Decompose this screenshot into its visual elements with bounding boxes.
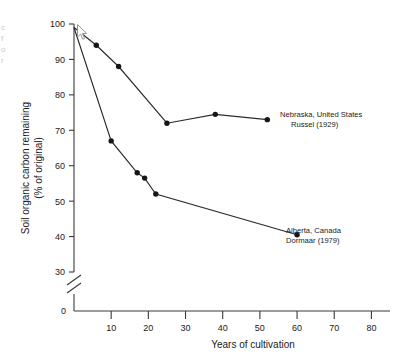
y-axis-tick-label-60: 60: [55, 161, 65, 171]
x-axis-tick-label-40: 40: [218, 323, 228, 333]
y-axis-tick-label-100: 100: [50, 19, 65, 29]
data-point: [265, 117, 270, 122]
series-line-nebraska: [74, 28, 267, 124]
data-point: [135, 170, 140, 175]
data-point: [142, 175, 147, 180]
x-axis-ticks: 1020304050607080: [106, 311, 376, 333]
x-axis-tick-label-30: 30: [181, 323, 191, 333]
y-axis-tick-label-90: 90: [55, 55, 65, 65]
y-axis-title-line2: (% of original): [33, 137, 44, 199]
series-line-alberta: [74, 28, 297, 235]
mouse-cursor-icon: [77, 24, 88, 41]
series-annotation-alberta: Alberta, Canada Dormaar (1979): [286, 226, 342, 245]
series-label-nebraska-line1: Nebraska, United States: [280, 110, 363, 119]
x-axis-tick-label-70: 70: [329, 323, 339, 333]
chart-figure: 30405060708090100 1020304050607080 0 Soi…: [0, 0, 395, 363]
y-axis-break-icon: [67, 275, 81, 293]
data-point: [213, 112, 218, 117]
y-axis-title-line1: Soil organic carbon remaining: [20, 102, 31, 234]
data-point: [164, 121, 169, 126]
y-axis-tick-label-50: 50: [55, 197, 65, 207]
x-axis-tick-label-60: 60: [292, 323, 302, 333]
x-axis-tick-label-80: 80: [366, 323, 376, 333]
data-point: [94, 43, 99, 48]
data-point: [116, 64, 121, 69]
data-point: [108, 138, 113, 143]
series-label-alberta-line1: Alberta, Canada: [286, 226, 342, 235]
y-axis-ticks: 30405060708090100: [50, 19, 74, 277]
x-axis-tick-label-20: 20: [143, 323, 153, 333]
x-axis-title: Years of cultivation: [211, 339, 295, 350]
y-axis-tick-label-0: 0: [61, 306, 66, 316]
y-axis-title: Soil organic carbon remaining (% of orig…: [20, 102, 44, 234]
series-annotation-nebraska: Nebraska, United States Russel (1929): [280, 110, 363, 129]
data-point: [153, 191, 158, 196]
series-label-alberta-line2: Dormaar (1979): [286, 236, 340, 245]
series-alberta: [74, 28, 300, 238]
y-axis-tick-label-80: 80: [55, 90, 65, 100]
series-label-nebraska-line2: Russel (1929): [291, 120, 339, 129]
series-nebraska: [74, 28, 270, 126]
y-axis-tick-label-70: 70: [55, 126, 65, 136]
x-axis-tick-label-50: 50: [255, 323, 265, 333]
x-axis-tick-label-10: 10: [106, 323, 116, 333]
series-layer: [74, 28, 300, 238]
y-axis-tick-label-30: 30: [55, 267, 65, 277]
y-axis-tick-label-40: 40: [55, 232, 65, 242]
